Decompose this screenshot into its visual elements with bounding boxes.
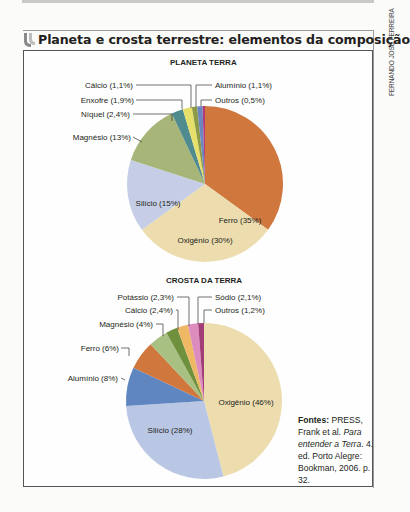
label-silicio-crosta: Silício (28%) xyxy=(148,426,193,435)
leader-line xyxy=(176,310,178,330)
leader-line xyxy=(204,310,212,323)
label-aluminio: Alumínio (1,1%) xyxy=(215,81,272,90)
label-oxigenio-crosta: Oxigênio (46%) xyxy=(218,398,273,407)
leader-line xyxy=(156,324,163,336)
label-niquel: Níquel (2,4%) xyxy=(81,110,130,119)
leader-line xyxy=(136,100,182,109)
label-silicio: Silício (15%) xyxy=(136,199,181,208)
leader-line xyxy=(196,85,212,107)
leader-line xyxy=(198,297,212,324)
leader-line xyxy=(136,85,191,108)
leader-line xyxy=(133,137,142,142)
label-magnesio: Magnésio (13%) xyxy=(73,133,132,142)
label-sodio-crosta: Sódio (2,1%) xyxy=(215,293,262,302)
label-ferro: Ferro (35%) xyxy=(219,216,262,225)
leader-line xyxy=(201,100,212,106)
leader-line xyxy=(177,297,189,326)
label-calcio: Cálcio (1,1%) xyxy=(85,81,133,90)
label-potassio-crosta: Potássio (2,3%) xyxy=(118,293,175,302)
label-ferro-crosta: Ferro (6%) xyxy=(81,344,120,353)
label-outros-crosta: Outros (1,2%) xyxy=(215,306,265,315)
leader-line xyxy=(121,378,125,380)
label-calcio-crosta: Cálcio (2,4%) xyxy=(125,306,173,315)
source-label: Fontes: xyxy=(298,415,329,425)
label-outros: Outros (0,5%) xyxy=(215,96,265,105)
leader-line xyxy=(121,348,129,356)
label-enxofre: Enxofre (1,9%) xyxy=(81,96,135,105)
label-magnesio-crosta: Magnésio (4%) xyxy=(99,320,153,329)
label-oxigenio: Oxigênio (30%) xyxy=(177,236,232,245)
label-aluminio-crosta: Alumínio (8%) xyxy=(68,374,119,383)
source-citation: Fontes: PRESS, Frank et al. Para entende… xyxy=(298,414,378,486)
